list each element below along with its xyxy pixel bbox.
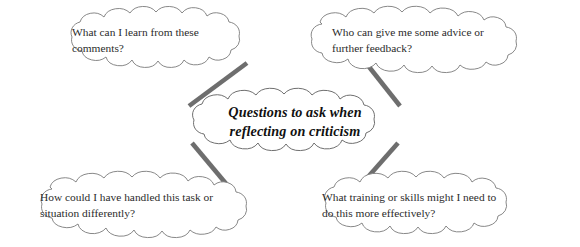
cloud-shape-center: [193, 88, 375, 150]
diagram-canvas: [0, 0, 580, 247]
cloud-shape-bottom-right: [325, 171, 507, 233]
mind-map-diagram: What can I learn from these comments? Wh…: [0, 0, 580, 247]
cloud-shape-bottom-left: [41, 171, 246, 237]
cloud-shape-top-right: [311, 6, 516, 72]
cloud-shape-top-left: [71, 6, 240, 67]
